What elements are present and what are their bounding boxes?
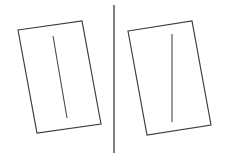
left-rod-line bbox=[53, 36, 67, 118]
figure-canvas bbox=[0, 0, 225, 154]
right-frame-outline bbox=[128, 21, 211, 135]
left-panel bbox=[18, 21, 101, 133]
right-panel bbox=[128, 21, 211, 135]
rod-and-frame-figure bbox=[0, 0, 225, 154]
